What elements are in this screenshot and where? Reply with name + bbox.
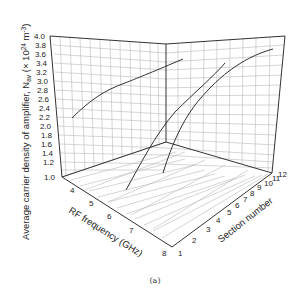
svg-text:9: 9 xyxy=(257,183,262,192)
svg-text:2.2: 2.2 xyxy=(39,113,51,122)
svg-text:6: 6 xyxy=(107,212,112,221)
svg-text:1.4: 1.4 xyxy=(42,149,54,158)
svg-text:2.0: 2.0 xyxy=(40,122,52,131)
svg-text:1.6: 1.6 xyxy=(41,140,53,149)
svg-text:3: 3 xyxy=(206,225,211,234)
svg-text:2.4: 2.4 xyxy=(39,104,51,113)
svg-text:2: 2 xyxy=(192,236,197,245)
svg-text:7: 7 xyxy=(129,226,134,235)
svg-text:4: 4 xyxy=(216,216,221,225)
svg-text:1: 1 xyxy=(178,249,183,258)
y-axis-ticks: 1 2 3 4 5 6 7 8 9 10 11 12 xyxy=(178,170,287,258)
svg-text:2.6: 2.6 xyxy=(38,95,50,104)
svg-text:1.2: 1.2 xyxy=(43,158,55,167)
svg-text:1.0: 1.0 xyxy=(44,173,56,182)
svg-text:2.8: 2.8 xyxy=(37,86,49,95)
3d-line-chart: 4.0 3.8 3.6 3.4 3.2 3.0 2.8 2.6 2.4 2.2 … xyxy=(0,0,301,300)
z-axis-ticks: 4.0 3.8 3.6 3.4 3.2 3.0 2.8 2.6 2.4 2.2 … xyxy=(34,32,56,182)
svg-text:4: 4 xyxy=(70,186,75,195)
svg-text:3.2: 3.2 xyxy=(36,68,48,77)
svg-text:1.8: 1.8 xyxy=(41,131,53,140)
svg-text:8: 8 xyxy=(250,189,255,198)
svg-text:7: 7 xyxy=(243,195,248,204)
svg-text:12: 12 xyxy=(278,170,287,179)
back-left-wall-grid xyxy=(53,37,166,177)
svg-text:4.0: 4.0 xyxy=(34,32,46,41)
svg-text:8: 8 xyxy=(162,249,167,258)
svg-text:3.8: 3.8 xyxy=(35,41,47,50)
svg-text:3.6: 3.6 xyxy=(35,50,47,59)
svg-text:3.0: 3.0 xyxy=(37,77,49,86)
svg-text:5: 5 xyxy=(227,208,232,217)
svg-text:5: 5 xyxy=(89,199,94,208)
svg-text:3.4: 3.4 xyxy=(36,59,48,68)
svg-text:6: 6 xyxy=(235,201,240,210)
z-axis-label: Average carrier density of amplifier, Na… xyxy=(20,24,32,240)
figure-caption: (a) xyxy=(149,276,160,285)
